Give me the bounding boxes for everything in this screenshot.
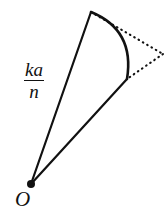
dotted-tangent-lower xyxy=(127,54,163,79)
fraction-label: ka n xyxy=(24,60,44,101)
origin-label: O xyxy=(15,189,30,210)
radius-line-lower xyxy=(31,79,127,184)
fraction-denominator: n xyxy=(24,81,44,101)
sector-diagram: ka n O xyxy=(0,0,168,221)
fraction-numerator: ka xyxy=(24,60,44,81)
